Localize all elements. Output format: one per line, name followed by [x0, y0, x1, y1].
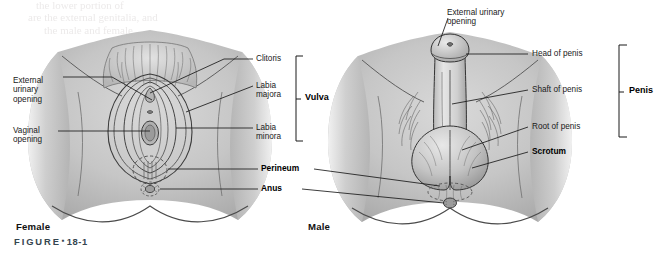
label-clitoris: Clitoris: [256, 54, 281, 63]
label-perineum: Perineum: [261, 164, 299, 173]
bracket-label-penis: Penis: [629, 86, 653, 95]
label-female-vaginal-opening: Vaginal opening: [13, 126, 42, 145]
label-head-of-penis: Head of penis: [532, 49, 583, 58]
label-female-external-urinary-opening: External urinary opening: [13, 76, 43, 104]
figure-caption-marker: ▪: [62, 236, 65, 245]
label-labia-majora: Labia majora: [256, 81, 281, 100]
panel-title-female: Female: [16, 222, 50, 231]
label-male-external-urinary-opening: External urinary opening: [447, 8, 504, 27]
panel-title-male: Male: [308, 222, 330, 231]
figure-18-1: the lower portion of are the external ge…: [0, 0, 660, 255]
figure-caption-word: FIGURE: [14, 236, 61, 247]
figure-caption: FIGURE▪18-1: [14, 236, 88, 247]
bracket-label-vulva: Vulva: [305, 93, 329, 102]
label-anus: Anus: [261, 184, 282, 193]
label-labia-minora: Labia minora: [256, 123, 281, 142]
figure-caption-number: 18-1: [67, 236, 88, 247]
label-scrotum: Scrotum: [532, 147, 566, 156]
label-root-of-penis: Root of penis: [532, 122, 580, 131]
label-shaft-of-penis: Shaft of penis: [532, 85, 582, 94]
